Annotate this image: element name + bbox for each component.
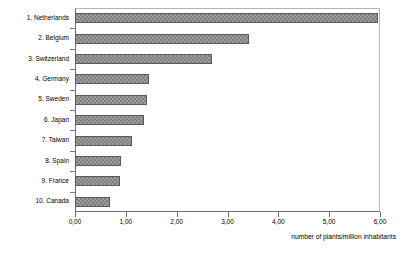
bar-row [75, 130, 380, 150]
bar [75, 156, 121, 166]
x-axis-title: number of plants/million inhabitants [0, 234, 396, 241]
bar [75, 136, 132, 146]
x-axis-tick [329, 212, 330, 217]
category-label: 5. Sweden [0, 96, 69, 103]
bar-chart: 1. Netherlands2. Belgium3. Switzerland4.… [0, 0, 403, 255]
bar-row [75, 192, 380, 212]
y-axis-tick [70, 110, 75, 111]
y-axis-tick [70, 69, 75, 70]
bar [75, 115, 144, 125]
x-axis-tick-label: 3,00 [208, 219, 248, 226]
bar [75, 74, 149, 84]
bar-row [75, 171, 380, 191]
y-axis-tick [70, 28, 75, 29]
y-axis-tick [70, 130, 75, 131]
bar-row [75, 49, 380, 69]
x-axis-tick-label: 5,00 [309, 219, 349, 226]
category-label: 8. Spain [0, 158, 69, 165]
category-label: 3. Switzerland [0, 56, 69, 63]
bar [75, 197, 110, 207]
bar-row [75, 90, 380, 110]
bar-row [75, 69, 380, 89]
y-axis-tick [70, 171, 75, 172]
y-axis-tick [70, 49, 75, 50]
bar [75, 176, 120, 186]
x-axis-tick [278, 212, 279, 217]
bar-row [75, 8, 380, 28]
bar [75, 95, 147, 105]
category-label: 4. Germany [0, 76, 69, 83]
bar-row [75, 151, 380, 171]
bar [75, 13, 378, 23]
x-axis-tick [228, 212, 229, 217]
x-axis-tick [75, 212, 76, 217]
bar-row [75, 110, 380, 130]
x-axis-tick [126, 212, 127, 217]
x-axis-tick-label: 2,00 [157, 219, 197, 226]
x-axis-tick [380, 212, 381, 217]
category-label: 9. France [0, 178, 69, 185]
bar [75, 54, 212, 64]
category-label: 2. Belgium [0, 35, 69, 42]
category-label: 10. Canada [0, 198, 69, 205]
x-axis-tick [177, 212, 178, 217]
x-axis-tick-label: 4,00 [258, 219, 298, 226]
bar-row [75, 28, 380, 48]
x-axis-tick-label: 6,00 [360, 219, 400, 226]
x-axis-tick-label: 1,00 [106, 219, 146, 226]
x-axis-tick-label: 0,00 [55, 219, 95, 226]
bar [75, 34, 249, 44]
y-axis-tick [70, 151, 75, 152]
y-axis-tick [70, 90, 75, 91]
category-label: 1. Netherlands [0, 15, 69, 22]
category-label: 6. Japan [0, 117, 69, 124]
y-axis-tick [70, 192, 75, 193]
category-label: 7. Taiwan [0, 137, 69, 144]
